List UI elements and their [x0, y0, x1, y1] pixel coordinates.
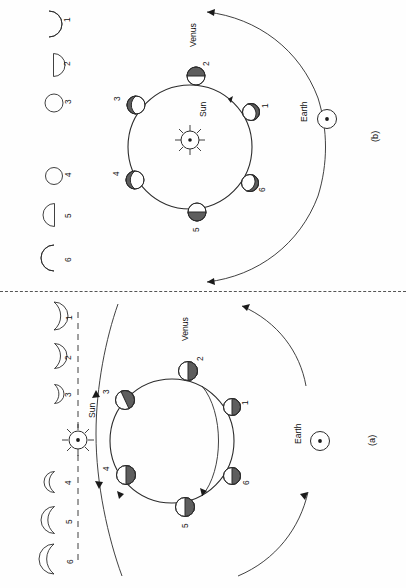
phase-icon-5-b — [43, 204, 55, 227]
phase-icon-1-b — [49, 11, 62, 37]
earth-symbol-b — [318, 110, 337, 129]
venus-label-a: Venus — [180, 317, 190, 341]
venus-position-4-b — [126, 171, 144, 189]
phase-icon-number-1-a: 1 — [65, 315, 74, 320]
venus-position-6-a — [224, 468, 241, 485]
venus-position-1-b — [243, 101, 262, 120]
sun-label-a: Sun — [87, 402, 97, 418]
venus-number-3-a: 3 — [102, 389, 111, 394]
phase-icon-number-4-a: 4 — [64, 480, 73, 485]
phase-icon-number-4-b: 4 — [64, 172, 73, 177]
earth-label-a: Earth — [293, 423, 303, 444]
orbit-inner-arc-a — [202, 386, 219, 496]
sun-symbol-a — [62, 424, 94, 456]
figure-canvas: Sun Earth Venus 1 2 — [0, 0, 406, 588]
venus-number-6-b: 6 — [258, 187, 267, 192]
panel-b-graphic: Sun Earth Venus 1 2 — [0, 0, 406, 294]
venus-number-1-b: 1 — [261, 103, 270, 108]
phase-icon-number-2-a: 2 — [64, 355, 73, 360]
venus-number-6-a: 6 — [242, 480, 251, 485]
phase-icon-number-6-a: 6 — [66, 559, 75, 564]
venus-position-2-b — [187, 67, 205, 85]
earth-label-b: Earth — [299, 101, 309, 122]
orbit-direction-marker-2-a — [117, 491, 124, 499]
phase-icon-number-5-a: 5 — [65, 519, 74, 524]
phase-icon-number-3-b: 3 — [64, 99, 73, 104]
venus-label-b: Venus — [188, 23, 198, 47]
venus-number-1-a: 1 — [241, 400, 250, 405]
phase-icon-number-1-b: 1 — [63, 17, 72, 22]
venus-number-2-b: 2 — [202, 61, 211, 66]
phase-icon-3-a — [55, 385, 65, 404]
panel-divider — [0, 291, 406, 292]
panel-b: Sun Earth Venus 1 2 — [0, 0, 406, 294]
phase-icon-4-b — [46, 168, 63, 185]
venus-number-2-a: 2 — [196, 356, 205, 361]
venus-number-4-b: 4 — [112, 171, 121, 176]
phase-icon-6-a — [39, 544, 54, 574]
phase-icon-3-b — [45, 94, 63, 112]
panel-label-b: (b) — [370, 131, 380, 142]
venus-number-5-b: 5 — [192, 227, 201, 232]
venus-position-5-a — [176, 498, 195, 517]
panel-a-graphic: Sun Earth Venus 1 2 — [0, 294, 406, 588]
venus-position-3-a — [116, 387, 138, 409]
earth-symbol-a — [311, 432, 330, 451]
panel-label-a: (a) — [367, 435, 377, 446]
venus-number-3-b: 3 — [113, 96, 122, 101]
phase-icon-number-2-b: 2 — [63, 61, 72, 66]
phase-icon-number-6-b: 6 — [64, 257, 73, 262]
outer-orbit-arcs-a — [92, 304, 308, 576]
venus-position-1-a — [224, 399, 241, 416]
venus-position-3-b — [127, 96, 145, 114]
venus-number-5-a: 5 — [181, 523, 190, 528]
venus-position-4-a — [117, 466, 136, 485]
sun-symbol-b — [175, 125, 205, 155]
venus-number-4-a: 4 — [102, 466, 111, 471]
phase-icon-number-3-a: 3 — [64, 392, 73, 397]
outer-orbit-arcs-b — [207, 9, 326, 285]
phase-icon-number-5-b: 5 — [64, 213, 73, 218]
venus-position-5-b — [188, 203, 206, 221]
venus-position-2-a — [179, 362, 198, 381]
phase-icon-4-a — [44, 472, 55, 493]
sun-label-b: Sun — [198, 101, 208, 117]
panel-a: Sun Earth Venus 1 2 — [0, 294, 406, 588]
phase-icon-6-b — [41, 245, 54, 271]
phase-icon-5-a — [41, 507, 54, 534]
